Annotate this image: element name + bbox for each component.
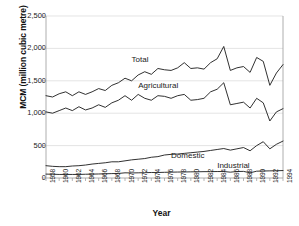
x-tick-label: 1988 — [246, 169, 253, 183]
x-tick-label: 1980 — [193, 169, 200, 183]
x-tick-label: 1990 — [259, 169, 266, 183]
x-tick-label: 1970 — [128, 169, 135, 183]
x-tick-label: 1994 — [286, 169, 293, 183]
series-label-domestic: Domestic — [171, 151, 204, 160]
x-tick-label: 1958 — [49, 169, 56, 183]
x-tick-label: 1984 — [220, 169, 227, 183]
x-axis-tick-labels: 1958196019621964196619681970197219741976… — [0, 0, 299, 226]
series-label-industrial: Industrial — [217, 161, 249, 170]
x-tick-label: 1978 — [180, 169, 187, 183]
chart-figure: MCM (million cubic metre) 05001,0001,500… — [0, 0, 299, 226]
x-axis-title-text: Year — [129, 208, 171, 218]
x-tick-label: 1960 — [62, 169, 69, 183]
series-label-agricultural: Agricultural — [138, 81, 178, 90]
x-tick-label: 1968 — [114, 169, 121, 183]
x-tick-label: 1974 — [154, 169, 161, 183]
x-axis-title: Year — [0, 208, 299, 218]
series-label-total: Total — [132, 55, 149, 64]
x-tick-label: 1972 — [141, 169, 148, 183]
x-tick-label: 1986 — [233, 169, 240, 183]
x-tick-label: 1982 — [207, 169, 214, 183]
x-tick-label: 1964 — [88, 169, 95, 183]
x-tick-label: 1992 — [272, 169, 279, 183]
x-tick-label: 1962 — [75, 169, 82, 183]
x-tick-label: 1976 — [167, 169, 174, 183]
x-tick-label: 1966 — [101, 169, 108, 183]
